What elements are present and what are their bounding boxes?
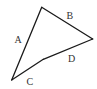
diagram-canvas: A B D C bbox=[0, 0, 97, 89]
label-b: B bbox=[67, 10, 74, 21]
label-a: A bbox=[15, 34, 23, 45]
label-d: D bbox=[68, 53, 75, 64]
label-c: C bbox=[27, 76, 34, 87]
